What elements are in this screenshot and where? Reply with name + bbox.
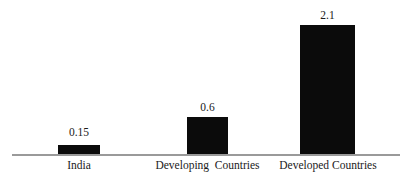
- bar-india: [58, 145, 100, 154]
- value-label-india: 0.15: [58, 126, 100, 139]
- category-label-developed-countries: Developed Countries: [266, 158, 390, 173]
- category-label-developing-countries: Developing Countries: [143, 158, 272, 173]
- x-axis-line: [12, 154, 400, 156]
- value-label-developed-countries: 2.1: [300, 9, 355, 22]
- bar-chart-figure: 0.15 0.6 2.1 India Developing Countries …: [0, 0, 412, 181]
- bar-developing-countries: [187, 117, 228, 154]
- category-label-india: India: [44, 158, 114, 173]
- value-label-developing-countries: 0.6: [187, 101, 228, 114]
- bar-developed-countries: [300, 25, 355, 154]
- plot-area: 0.15 0.6 2.1 India Developing Countries …: [0, 0, 412, 181]
